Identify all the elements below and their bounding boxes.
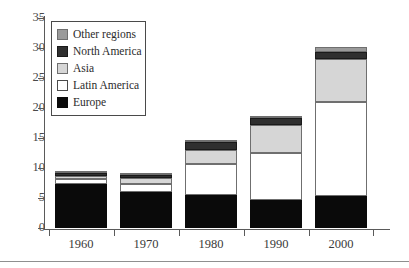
x-tick-mark [179, 229, 180, 236]
bar-segment-north-1960[interactable] [55, 173, 107, 176]
legend-label-asia: Asia [73, 63, 94, 75]
bar-segment-europe-1990[interactable] [250, 200, 302, 228]
bar-segment-asia-1980[interactable] [185, 150, 237, 164]
bar-segment-north-2000[interactable] [315, 52, 367, 59]
bar-segment-latin-1960[interactable] [55, 179, 107, 184]
y-tick-mark [38, 228, 45, 229]
legend-swatch-asia-icon [57, 63, 68, 74]
x-tick-mark [244, 229, 245, 236]
chart-figure: 05101520253035 Other regions North Ameri… [0, 0, 409, 268]
legend-label-europe: Europe [73, 97, 106, 109]
bar-segment-other-1970[interactable] [120, 173, 172, 175]
legend-label-latin-america: Latin America [73, 80, 139, 92]
y-tick-mark [38, 108, 45, 109]
legend-item-asia[interactable]: Asia [57, 60, 140, 77]
legend-label-other-regions: Other regions [73, 29, 136, 41]
bar-segment-latin-1970[interactable] [120, 184, 172, 192]
x-tick-label-2000: 2000 [309, 238, 373, 251]
bar-1990[interactable] [250, 18, 302, 228]
bar-2000[interactable] [315, 18, 367, 228]
y-tick-mark [38, 78, 45, 79]
bar-segment-other-1980[interactable] [185, 140, 237, 142]
bar-segment-other-2000[interactable] [315, 47, 367, 52]
bar-segment-north-1970[interactable] [120, 175, 172, 179]
bar-segment-asia-2000[interactable] [315, 59, 367, 102]
x-tick-mark [114, 229, 115, 236]
x-tick-mark [49, 229, 50, 236]
x-axis-line [44, 229, 390, 230]
x-tick-label-1970: 1970 [114, 238, 178, 251]
legend-swatch-other-regions-icon [57, 29, 68, 40]
bar-segment-other-1960[interactable] [55, 171, 107, 173]
figure-bottom-rule [0, 261, 409, 262]
bar-segment-asia-1990[interactable] [250, 125, 302, 153]
bar-segment-europe-1970[interactable] [120, 192, 172, 228]
legend-swatch-north-america-icon [57, 46, 68, 57]
bar-segment-latin-2000[interactable] [315, 102, 367, 196]
legend-swatch-europe-icon [57, 97, 68, 108]
legend-swatch-latin-america-icon [57, 80, 68, 91]
bar-segment-latin-1980[interactable] [185, 164, 237, 195]
x-tick-mark [309, 229, 310, 236]
x-tick-label-1990: 1990 [244, 238, 308, 251]
bar-segment-north-1980[interactable] [185, 142, 237, 150]
legend-item-north-america[interactable]: North America [57, 43, 140, 60]
legend-item-other-regions[interactable]: Other regions [57, 26, 140, 43]
y-tick-mark [38, 138, 45, 139]
legend-item-latin-america[interactable]: Latin America [57, 77, 140, 94]
bar-segment-asia-1960[interactable] [55, 176, 107, 180]
bar-segment-europe-1980[interactable] [185, 195, 237, 228]
y-tick-mark [38, 48, 45, 49]
bar-segment-north-1990[interactable] [250, 118, 302, 125]
chart-legend: Other regions North America Asia Latin A… [51, 21, 146, 116]
bar-segment-europe-1960[interactable] [55, 184, 107, 228]
y-tick-mark [38, 18, 45, 19]
y-tick-mark [38, 198, 45, 199]
legend-label-north-america: North America [73, 46, 142, 58]
bar-1980[interactable] [185, 18, 237, 228]
y-tick-mark [38, 168, 45, 169]
bar-segment-latin-1990[interactable] [250, 153, 302, 200]
x-tick-label-1960: 1960 [49, 238, 113, 251]
legend-item-europe[interactable]: Europe [57, 94, 140, 111]
bar-segment-other-1990[interactable] [250, 116, 302, 118]
bar-segment-europe-2000[interactable] [315, 196, 367, 228]
x-tick-mark [373, 229, 374, 236]
bar-segment-asia-1970[interactable] [120, 178, 172, 183]
x-tick-label-1980: 1980 [179, 238, 243, 251]
